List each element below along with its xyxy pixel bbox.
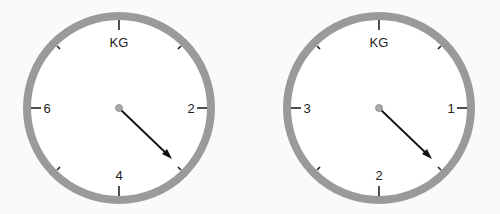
scale-dial-right: KG 1 2 3 (250, 0, 500, 214)
dial-number-left: 3 (303, 101, 310, 116)
unit-label: KG (370, 35, 389, 50)
dial-number-right: 1 (447, 101, 454, 116)
needle-hub (376, 105, 383, 112)
dial-graphic: KG 2 4 6 (0, 0, 250, 214)
unit-label: KG (110, 35, 129, 50)
needle-hub (116, 105, 123, 112)
dial-graphic: KG 1 2 3 (250, 0, 500, 214)
dial-number-right: 2 (187, 101, 194, 116)
dial-number-bottom: 2 (375, 168, 382, 183)
scale-dial-left: KG 2 4 6 (0, 0, 250, 214)
dial-number-bottom: 4 (115, 168, 122, 183)
dial-number-left: 6 (43, 101, 50, 116)
